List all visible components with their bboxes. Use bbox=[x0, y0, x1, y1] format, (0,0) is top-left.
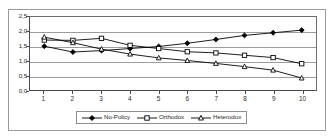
x-axis-tick bbox=[43, 91, 44, 94]
x-axis-label: 4 bbox=[120, 96, 140, 102]
data-point bbox=[213, 37, 218, 42]
series-line bbox=[44, 37, 301, 78]
data-point bbox=[42, 35, 47, 40]
legend-label: No-Policy bbox=[104, 114, 130, 120]
plot-area bbox=[29, 16, 317, 91]
series-line bbox=[44, 38, 301, 63]
data-point bbox=[185, 41, 190, 46]
x-axis-label: 1 bbox=[33, 96, 53, 102]
data-point bbox=[99, 36, 103, 40]
top-caption bbox=[3, 0, 123, 7]
x-axis-label: 9 bbox=[264, 96, 284, 102]
x-axis-label: 10 bbox=[293, 96, 313, 102]
data-point bbox=[271, 68, 276, 73]
y-axis-label: 2,0 bbox=[1, 28, 27, 34]
data-point bbox=[42, 44, 47, 49]
x-axis-tick bbox=[216, 91, 217, 94]
data-point bbox=[185, 50, 189, 54]
x-axis: 12345678910 bbox=[29, 91, 317, 92]
x-axis-tick bbox=[274, 91, 275, 94]
legend-label: Heterodox bbox=[213, 114, 241, 120]
x-axis-tick bbox=[159, 91, 160, 94]
x-axis-tick bbox=[72, 91, 73, 94]
data-point bbox=[157, 46, 161, 50]
data-point bbox=[99, 47, 104, 52]
x-axis-label: 7 bbox=[206, 96, 226, 102]
y-axis-label: 0,5 bbox=[1, 73, 27, 79]
data-point bbox=[300, 62, 304, 66]
data-point bbox=[299, 75, 304, 80]
x-axis-tick bbox=[130, 91, 131, 94]
plot-inner bbox=[30, 17, 316, 90]
data-point bbox=[128, 43, 132, 47]
x-axis-tick bbox=[101, 91, 102, 94]
legend-label: Orthodox bbox=[159, 114, 184, 120]
chart-figure: 2,52,01,51,00,50,0 12345678910 No-Policy… bbox=[0, 0, 334, 137]
data-point bbox=[214, 61, 219, 66]
filled-diamond-icon bbox=[82, 114, 102, 122]
x-axis-label: 8 bbox=[235, 96, 255, 102]
x-axis-tick bbox=[245, 91, 246, 94]
data-point bbox=[242, 53, 246, 57]
data-point bbox=[271, 55, 275, 59]
x-axis-label: 6 bbox=[177, 96, 197, 102]
series-layer bbox=[30, 17, 316, 90]
open-square-icon bbox=[137, 114, 157, 122]
data-point bbox=[214, 51, 218, 55]
data-point bbox=[128, 52, 133, 57]
data-point bbox=[242, 64, 247, 69]
data-point bbox=[271, 30, 276, 35]
series-line bbox=[44, 30, 301, 52]
legend-entry-heterodox[interactable]: Heterodox bbox=[191, 114, 241, 122]
x-axis-label: 2 bbox=[62, 96, 82, 102]
open-triangle-icon bbox=[191, 114, 211, 122]
data-point bbox=[185, 58, 190, 63]
legend-entry-no-policy[interactable]: No-Policy bbox=[82, 114, 130, 122]
y-axis-label: 1,5 bbox=[1, 43, 27, 49]
y-axis-label: 0,0 bbox=[1, 88, 27, 94]
chart-legend: No-PolicyOrthodoxHeterodox bbox=[76, 111, 247, 124]
x-axis-label: 5 bbox=[149, 96, 169, 102]
y-axis-label: 2,5 bbox=[1, 13, 27, 19]
y-axis-label: 1,0 bbox=[1, 58, 27, 64]
x-axis-label: 3 bbox=[91, 96, 111, 102]
series-orthodox bbox=[42, 36, 304, 66]
legend-entry-orthodox[interactable]: Orthodox bbox=[137, 114, 184, 122]
data-point bbox=[299, 28, 304, 33]
data-point bbox=[70, 50, 75, 55]
data-point bbox=[242, 33, 247, 38]
x-axis-tick bbox=[303, 91, 304, 94]
x-axis-tick bbox=[187, 91, 188, 94]
data-point bbox=[156, 55, 161, 60]
